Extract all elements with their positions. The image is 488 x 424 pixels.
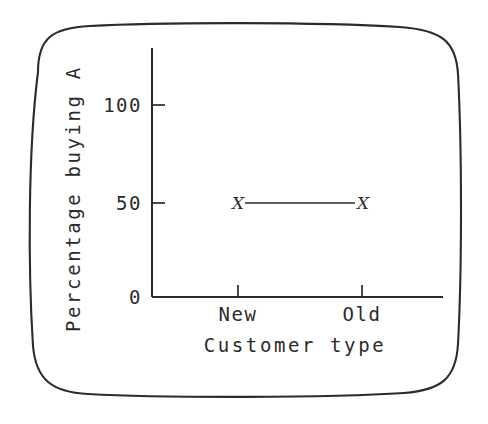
y-axis-title: Percentage buying A	[62, 65, 84, 332]
y-axis-tick-label-100: 100	[80, 94, 142, 116]
x-axis-tick-label-old: Old	[322, 303, 402, 325]
data-point-marker-old: X	[353, 193, 373, 213]
x-axis-tick-label-new: New	[198, 303, 278, 325]
y-axis-tick-label-50: 50	[80, 192, 142, 214]
y-axis-tick-label-0: 0	[80, 286, 142, 308]
data-point-marker-new: X	[228, 193, 248, 213]
x-axis-title: Customer type	[195, 334, 395, 356]
chart-figure: X X 100 50 0 New Old Customer type Perce…	[0, 0, 488, 424]
